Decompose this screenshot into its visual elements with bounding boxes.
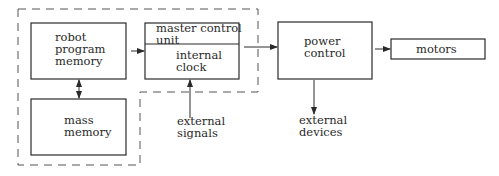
mass-memory-label: mass memory: [64, 114, 112, 138]
external-signals-label: external signals: [177, 115, 225, 139]
internal-clock-label: internal clock: [176, 49, 222, 73]
master-control-unit-label: master control unit: [156, 22, 242, 46]
diagram-lines: [0, 0, 499, 176]
external-devices-label: external devices: [299, 114, 347, 138]
power-control-label: power control: [304, 35, 346, 59]
motors-label: motors: [416, 43, 457, 55]
robot-program-memory-label: robot program memory: [55, 31, 105, 67]
robot-controller-block-diagram: robot program memory mass memory master …: [0, 0, 499, 176]
